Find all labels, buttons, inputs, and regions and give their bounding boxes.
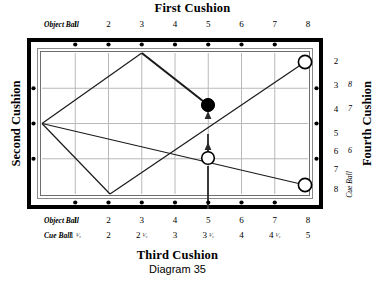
bottom-cue-value-6: 4 xyxy=(231,230,253,240)
diamonds-bottom xyxy=(73,200,277,204)
fourth-cushion-title: Fourth Cushion xyxy=(360,64,375,184)
top-scale-value-2: 2 xyxy=(98,19,120,29)
bottom-cue-value-8: 5 xyxy=(297,230,319,240)
bottom-cue-value-4: 3 xyxy=(164,230,186,240)
bottom-object-value-2: 2 xyxy=(98,215,120,225)
right-inner-cue-value-6: 6 xyxy=(344,146,356,155)
top-scale-value-8: 8 xyxy=(297,19,319,29)
right-outer-value-6: 6 xyxy=(330,146,342,156)
bottom-object-value-4: 4 xyxy=(164,215,186,225)
billiards-diagram-page: First Cushion Second Cushion Fourth Cush… xyxy=(0,0,385,281)
diagram-caption: Diagram 35 xyxy=(0,263,355,275)
bottom-cue-value-2: 2 xyxy=(98,230,120,240)
top-scale-value-4: 4 xyxy=(164,19,186,29)
top-scale-value-6: 6 xyxy=(231,19,253,29)
right-inner-cue-value-7: 7 xyxy=(344,104,356,113)
right-outer-value-7: 7 xyxy=(330,164,342,174)
bottom-object-value-1: 1 xyxy=(64,215,86,225)
right-outer-value-2: 2 xyxy=(330,56,342,66)
third-cushion-title: Third Cushion xyxy=(0,248,355,263)
bottom-object-value-7: 7 xyxy=(264,215,286,225)
object-ball xyxy=(201,98,214,111)
right-outer-value-5: 5 xyxy=(330,128,342,138)
bottom-object-value-6: 6 xyxy=(231,215,253,225)
right-outer-value-8: 8 xyxy=(330,184,342,194)
cue-ball-vertical-label: Cue Ball xyxy=(345,161,354,209)
bottom-cue-value-5: 3 ¹⁄₂ xyxy=(197,230,219,240)
right-outer-value-4: 4 xyxy=(330,104,342,114)
diamonds-left xyxy=(31,86,35,161)
bottom-cue-value-3: 2 ¹⁄₂ xyxy=(131,230,153,240)
top-scale-value-5: 5 xyxy=(197,19,219,29)
fraction-glyph: ¹⁄₂ xyxy=(276,232,281,238)
right-outer-value-3: 3 xyxy=(330,80,342,90)
right-inner-cue-value-8: 8 xyxy=(344,80,356,89)
first-cushion-title: First Cushion xyxy=(0,1,385,16)
fraction-glyph: ¹⁄₂ xyxy=(76,232,81,238)
diamonds-right xyxy=(314,86,318,161)
target-ball-bottom xyxy=(298,178,311,191)
top-scale-value-3: 3 xyxy=(131,19,153,29)
fraction-glyph: ¹⁄₂ xyxy=(209,232,214,238)
top-scale-value-1: 1 xyxy=(64,19,86,29)
bottom-object-value-5: 5 xyxy=(197,215,219,225)
bottom-cue-value-1: 1 ¹⁄₂ xyxy=(64,230,86,240)
diamonds-top xyxy=(73,42,277,46)
top-scale-value-7: 7 xyxy=(264,19,286,29)
billiard-table xyxy=(27,38,323,209)
second-cushion-title: Second Cushion xyxy=(9,64,24,184)
bottom-cue-value-7: 4 ¹⁄₂ xyxy=(264,230,286,240)
bottom-object-value-3: 3 xyxy=(131,215,153,225)
cue-ball xyxy=(202,152,215,165)
fraction-glyph: ¹⁄₂ xyxy=(143,232,148,238)
bottom-object-value-8: 8 xyxy=(297,215,319,225)
target-ball-top xyxy=(298,55,311,68)
